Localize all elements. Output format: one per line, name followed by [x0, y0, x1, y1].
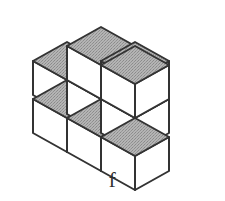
figure-caption-label: f	[0, 166, 225, 194]
figure-panel: f	[0, 0, 225, 201]
